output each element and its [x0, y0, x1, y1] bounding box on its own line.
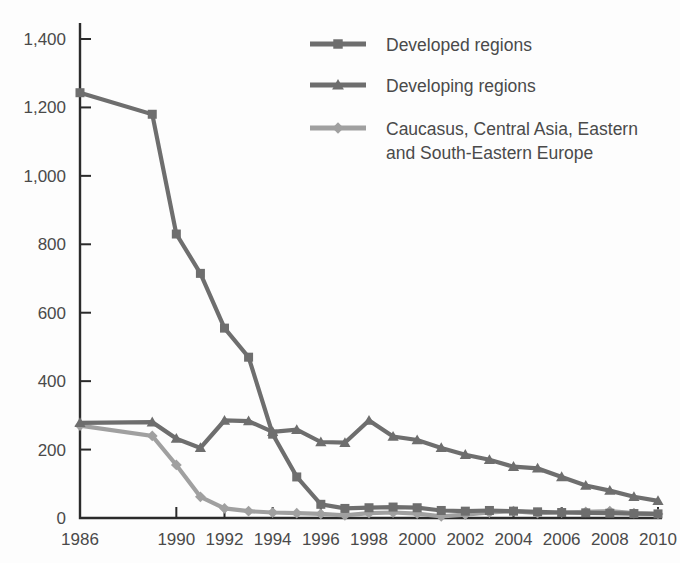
legend-label: Caucasus, Central Asia, Eastern — [386, 119, 638, 139]
line-chart-plot: 02004006008001,0001,2001,400 19861990199… — [0, 0, 680, 563]
x-tick-label: 2000 — [398, 530, 436, 549]
legend-label: Developing regions — [386, 76, 536, 96]
x-tick-label: 1994 — [254, 530, 292, 549]
square-marker-icon — [389, 503, 398, 512]
square-marker-icon — [244, 353, 253, 362]
square-marker-icon — [172, 230, 181, 239]
x-tick-label: 1990 — [157, 530, 195, 549]
axis-lines — [80, 23, 662, 518]
y-axis-ticks — [80, 39, 91, 450]
chart-container: 02004006008001,0001,2001,400 19861990199… — [0, 0, 680, 563]
legend-label: Developed regions — [386, 35, 532, 55]
y-axis-tick-labels: 02004006008001,0001,2001,400 — [23, 30, 66, 528]
y-tick-label: 1,000 — [23, 167, 66, 186]
square-marker-icon — [437, 506, 446, 515]
series-line — [80, 421, 658, 501]
y-tick-label: 400 — [38, 372, 66, 391]
square-marker-icon — [654, 509, 663, 518]
legend-item-3[interactable]: Caucasus, Central Asia, Easternand South… — [310, 119, 638, 163]
square-marker-icon — [461, 507, 470, 516]
x-tick-label: 2008 — [591, 530, 629, 549]
square-marker-icon — [533, 507, 542, 516]
triangle-marker-icon — [363, 415, 374, 425]
square-marker-icon — [148, 110, 157, 119]
y-tick-label: 1,400 — [23, 30, 66, 49]
x-tick-label: 1998 — [350, 530, 388, 549]
y-tick-label: 800 — [38, 235, 66, 254]
x-tick-label: 1992 — [206, 530, 244, 549]
square-marker-icon — [76, 88, 85, 97]
y-tick-label: 600 — [38, 304, 66, 323]
chart-legend: Developed regionsDeveloping regionsCauca… — [310, 35, 638, 163]
square-marker-icon — [509, 507, 518, 516]
y-tick-label: 1,200 — [23, 98, 66, 117]
square-marker-icon — [365, 503, 374, 512]
y-tick-label: 0 — [57, 509, 66, 528]
diamond-marker-icon — [243, 506, 254, 517]
series-2 — [74, 415, 663, 505]
square-marker-icon — [581, 508, 590, 517]
square-marker-icon — [605, 509, 614, 518]
x-tick-label: 1986 — [61, 530, 99, 549]
square-marker-icon — [485, 506, 494, 515]
x-tick-label: 2006 — [543, 530, 581, 549]
legend-item-1[interactable]: Developed regions — [310, 35, 532, 55]
diamond-marker-icon — [332, 122, 343, 133]
x-axis-tick-labels: 1986199019921994199619982000200220042006… — [61, 530, 677, 549]
square-marker-icon — [316, 500, 325, 509]
x-tick-label: 2004 — [495, 530, 533, 549]
legend-label-line2: and South-Eastern Europe — [386, 143, 593, 163]
square-marker-icon — [292, 472, 301, 481]
axes-group — [80, 23, 662, 518]
square-marker-icon — [557, 508, 566, 517]
square-marker-icon — [629, 509, 638, 518]
series-line — [80, 426, 658, 517]
square-marker-icon — [413, 503, 422, 512]
y-tick-label: 200 — [38, 441, 66, 460]
square-marker-icon — [340, 504, 349, 513]
legend-item-2[interactable]: Developing regions — [310, 76, 536, 96]
square-marker-icon — [333, 39, 342, 48]
square-marker-icon — [220, 324, 229, 333]
diamond-marker-icon — [267, 507, 278, 518]
x-tick-label: 1996 — [302, 530, 340, 549]
square-marker-icon — [196, 269, 205, 278]
x-tick-label: 2002 — [446, 530, 484, 549]
x-tick-label: 2010 — [639, 530, 677, 549]
